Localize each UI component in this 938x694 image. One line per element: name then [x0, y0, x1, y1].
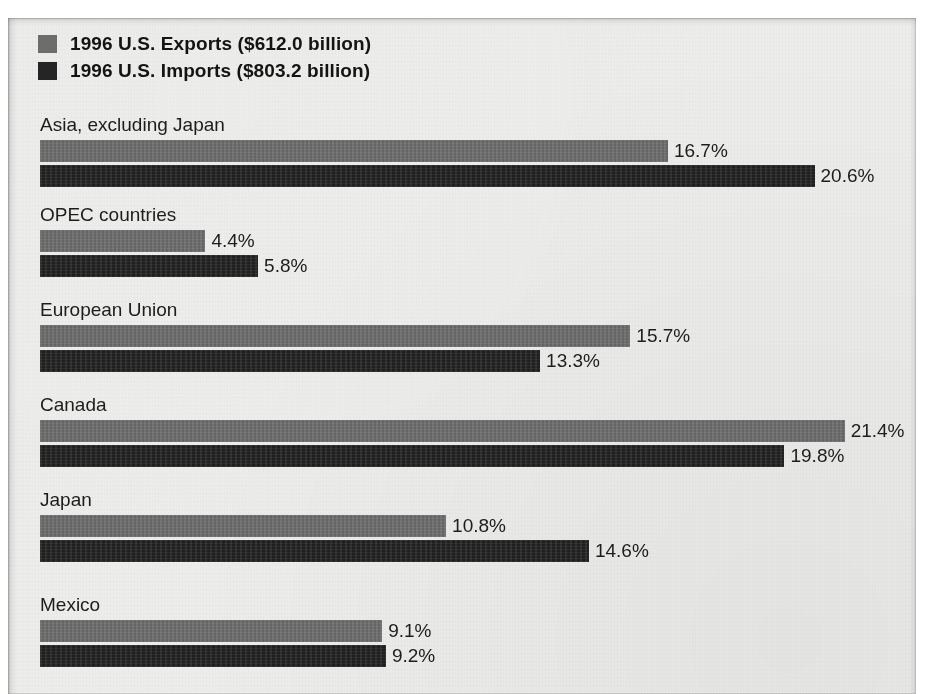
- bar-pair: 4.4%5.8%: [8, 230, 916, 277]
- bar-imports: [40, 350, 540, 372]
- bar-imports: [40, 165, 815, 187]
- category-label: Japan: [40, 489, 92, 511]
- bar-pair: 16.7%20.6%: [8, 140, 916, 187]
- bar-imports: [40, 540, 589, 562]
- legend-item-imports: 1996 U.S. Imports ($803.2 billion): [38, 57, 371, 84]
- bar-row-exports: 16.7%: [8, 140, 916, 162]
- bar-exports: [40, 420, 845, 442]
- bar-value-label-exports: 21.4%: [845, 420, 905, 442]
- bar-row-imports: 20.6%: [8, 165, 916, 187]
- bar-row-exports: 21.4%: [8, 420, 916, 442]
- bar-pair: 9.1%9.2%: [8, 620, 916, 667]
- legend-label-imports: 1996 U.S. Imports ($803.2 billion): [70, 60, 370, 82]
- legend-swatch-exports-icon: [38, 35, 57, 53]
- bar-value-label-imports: 5.8%: [258, 255, 307, 277]
- bar-value-label-exports: 9.1%: [382, 620, 431, 642]
- chart-legend: 1996 U.S. Exports ($612.0 billion) 1996 …: [38, 30, 371, 84]
- bar-value-label-imports: 19.8%: [784, 445, 844, 467]
- bar-exports: [40, 140, 668, 162]
- scanned-page: 1996 U.S. Exports ($612.0 billion) 1996 …: [8, 18, 916, 694]
- category-label: Canada: [40, 394, 107, 416]
- bar-value-label-imports: 20.6%: [815, 165, 875, 187]
- legend-swatch-imports-icon: [38, 62, 57, 80]
- bar-row-imports: 19.8%: [8, 445, 916, 467]
- legend-label-exports: 1996 U.S. Exports ($612.0 billion): [70, 33, 371, 55]
- bar-value-label-exports: 4.4%: [205, 230, 254, 252]
- bar-exports: [40, 515, 446, 537]
- bar-value-label-exports: 15.7%: [630, 325, 690, 347]
- bar-row-imports: 5.8%: [8, 255, 916, 277]
- bar-value-label-imports: 14.6%: [589, 540, 649, 562]
- bar-value-label-exports: 10.8%: [446, 515, 506, 537]
- category-label: Asia, excluding Japan: [40, 114, 225, 136]
- bar-pair: 10.8%14.6%: [8, 515, 916, 562]
- bar-row-imports: 13.3%: [8, 350, 916, 372]
- bar-value-label-exports: 16.7%: [668, 140, 728, 162]
- bar-imports: [40, 645, 386, 667]
- bar-imports: [40, 255, 258, 277]
- bar-pair: 15.7%13.3%: [8, 325, 916, 372]
- grouped-bar-chart: 1996 U.S. Exports ($612.0 billion) 1996 …: [8, 18, 916, 694]
- bar-row-imports: 9.2%: [8, 645, 916, 667]
- bar-row-exports: 9.1%: [8, 620, 916, 642]
- bar-exports: [40, 620, 382, 642]
- bar-value-label-imports: 13.3%: [540, 350, 600, 372]
- category-label: European Union: [40, 299, 177, 321]
- bar-row-exports: 15.7%: [8, 325, 916, 347]
- bar-exports: [40, 230, 205, 252]
- bar-row-imports: 14.6%: [8, 540, 916, 562]
- bar-row-exports: 10.8%: [8, 515, 916, 537]
- category-label: Mexico: [40, 594, 100, 616]
- bar-pair: 21.4%19.8%: [8, 420, 916, 467]
- bar-imports: [40, 445, 784, 467]
- bar-value-label-imports: 9.2%: [386, 645, 435, 667]
- bar-exports: [40, 325, 630, 347]
- bar-row-exports: 4.4%: [8, 230, 916, 252]
- category-label: OPEC countries: [40, 204, 176, 226]
- legend-item-exports: 1996 U.S. Exports ($612.0 billion): [38, 30, 371, 57]
